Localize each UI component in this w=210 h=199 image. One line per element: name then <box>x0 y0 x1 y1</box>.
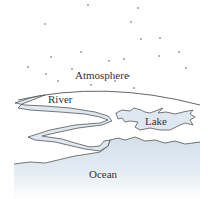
atmosphere-label: Atmosphere <box>75 70 129 81</box>
star-particle <box>71 68 73 70</box>
star-particle <box>137 7 139 9</box>
star-particle <box>133 87 135 89</box>
star-particle <box>178 51 180 53</box>
star-particle <box>159 37 161 39</box>
star-particle <box>87 4 89 6</box>
river-label: River <box>48 94 72 105</box>
star-particle <box>185 67 187 69</box>
star-particle <box>57 80 59 82</box>
star-particle <box>27 66 29 68</box>
star-particle <box>45 73 47 75</box>
star-particle <box>44 23 46 25</box>
atmosphere-boundary <box>18 91 200 105</box>
star-particle <box>108 60 110 62</box>
lake-label: Lake <box>145 116 167 127</box>
ocean-label: Ocean <box>89 169 117 180</box>
star-particle <box>90 84 92 86</box>
star-particle <box>130 21 132 23</box>
star-particle <box>140 38 142 40</box>
star-particle <box>80 51 82 53</box>
star-particle <box>50 56 52 58</box>
star-particle <box>123 58 125 60</box>
star-particle <box>158 55 160 57</box>
